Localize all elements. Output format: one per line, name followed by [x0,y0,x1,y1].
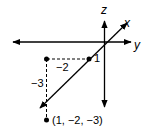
y-projection-point [44,57,49,62]
x-tick-point [87,57,92,62]
z-axis-label: z [100,3,107,17]
coordinate-diagram: z x y 1 −2 −3 (1, −2, −3) [0,0,147,137]
y-axis-label: y [133,38,141,52]
x-axis-label: x [123,16,131,30]
y-tick-label: −2 [56,61,69,73]
point-label: (1, −2, −3) [52,114,103,126]
x-axis [40,23,127,108]
z-tick-label: −3 [31,77,44,89]
x-tick-label: 1 [94,52,100,64]
target-point [44,118,49,123]
